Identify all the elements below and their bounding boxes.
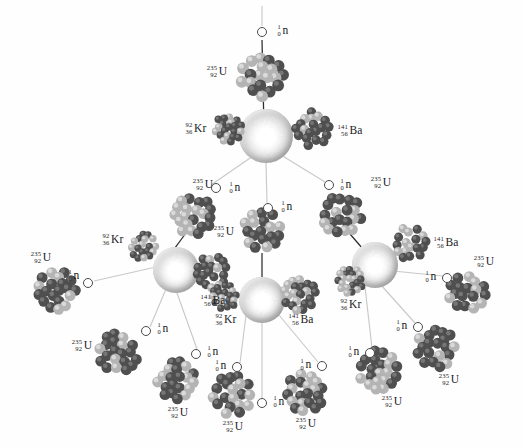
element-symbol: n [286, 201, 292, 213]
isotope-label-barium-141: 14156Ba [433, 236, 458, 249]
neutron-particle [317, 361, 327, 371]
isotope-label-uranium-235: 23592U [296, 417, 317, 430]
element-symbol: U [84, 340, 93, 352]
isotope-numbers: 10 [69, 269, 72, 282]
element-symbol: n [220, 360, 226, 372]
atomic-number: 0 [208, 352, 211, 359]
element-symbol: n [212, 346, 218, 358]
isotope-label-krypton-92: 9236Kr [215, 313, 236, 326]
element-symbol: n [73, 270, 79, 282]
element-symbol: n [345, 179, 351, 191]
element-symbol: Kr [111, 234, 124, 246]
isotope-numbers: 10 [208, 345, 211, 358]
isotope-numbers: 10 [278, 24, 281, 37]
neutron-ray [94, 267, 156, 281]
atomic-number: 36 [215, 320, 222, 327]
element-symbol: n [162, 323, 168, 335]
isotope-numbers: 10 [301, 358, 304, 371]
element-symbol: U [205, 179, 214, 191]
atomic-number: 92 [371, 183, 382, 190]
isotope-numbers: 23592 [474, 255, 485, 268]
neutron-particle [83, 278, 93, 288]
atomic-number: 36 [340, 305, 347, 312]
isotope-label-uranium-235: 23592U [31, 251, 52, 264]
nucleus-barium [390, 223, 430, 263]
isotope-numbers: 23592 [214, 225, 225, 238]
isotope-numbers: 10 [216, 359, 219, 372]
isotope-label-uranium-235: 23592U [382, 395, 403, 408]
isotope-label-uranium-235: 23592U [168, 406, 189, 419]
element-symbol: U [235, 421, 244, 433]
atomic-number: 92 [193, 185, 204, 192]
nucleus-uranium [281, 368, 329, 416]
element-symbol: U [394, 396, 403, 408]
neutron-particle [257, 27, 267, 37]
atomic-number: 92 [72, 346, 83, 353]
isotope-numbers: 10 [274, 395, 277, 408]
isotope-numbers: 14156 [288, 313, 299, 326]
isotope-label-neutron: 10n [274, 395, 285, 408]
isotope-numbers: 10 [230, 181, 233, 194]
atomic-number: 0 [301, 365, 304, 372]
neutron-ray [240, 315, 246, 363]
element-symbol: n [353, 346, 359, 358]
element-symbol: U [486, 256, 495, 268]
isotope-label-uranium-235: 23592U [371, 176, 392, 189]
atomic-number: 0 [158, 329, 161, 336]
isotope-numbers: 23592 [193, 178, 204, 191]
atomic-number: 92 [474, 262, 485, 269]
atomic-number: 0 [341, 185, 344, 192]
element-symbol: U [308, 418, 317, 430]
element-symbol: Ba [445, 237, 458, 249]
isotope-numbers: 9236 [215, 313, 222, 326]
atomic-number: 92 [207, 72, 218, 79]
fission-flash [239, 277, 285, 323]
isotope-numbers: 9236 [340, 298, 347, 311]
atomic-number: 92 [214, 232, 225, 239]
isotope-label-uranium-235: 23592U [223, 420, 244, 433]
nucleus-krypton [334, 265, 366, 297]
element-symbol: n [430, 271, 436, 283]
isotope-numbers: 14156 [433, 236, 444, 249]
isotope-numbers: 23592 [439, 373, 450, 386]
element-symbol: n [278, 396, 284, 408]
atomic-number: 36 [102, 240, 109, 247]
nucleus-barium [280, 275, 320, 315]
isotope-label-uranium-235: 23592U [193, 178, 214, 191]
isotope-label-uranium-235: 23592U [474, 255, 495, 268]
atomic-number: 56 [200, 301, 211, 308]
isotope-numbers: 23592 [371, 176, 382, 189]
neutron-particle [413, 322, 423, 332]
isotope-numbers: 10 [341, 178, 344, 191]
atomic-number: 0 [426, 277, 429, 284]
isotope-label-barium-141: 14156Ba [288, 313, 313, 326]
isotope-numbers: 10 [426, 270, 429, 283]
nucleus-krypton [128, 231, 160, 263]
atomic-number: 56 [433, 243, 444, 250]
isotope-label-krypton-92: 9236Kr [102, 233, 123, 246]
neutron-particle [365, 348, 375, 358]
isotope-label-krypton-92: 9236Kr [340, 298, 361, 311]
neutron-ray [381, 285, 415, 323]
neutron-ray [281, 155, 325, 182]
isotope-numbers: 23592 [31, 251, 42, 264]
isotope-numbers: 10 [397, 319, 400, 332]
isotope-label-neutron: 10n [208, 345, 219, 358]
isotope-numbers: 23592 [223, 420, 234, 433]
isotope-numbers: 14156 [200, 294, 211, 307]
neutron-ray [365, 287, 372, 348]
atomic-number: 0 [274, 402, 277, 409]
nucleus-uranium [318, 191, 366, 239]
atomic-number: 92 [439, 380, 450, 387]
element-symbol: n [401, 320, 407, 332]
isotope-numbers: 9236 [185, 122, 192, 135]
isotope-label-neutron: 10n [301, 358, 312, 371]
neutron-ray [266, 163, 267, 203]
atomic-number: 92 [223, 427, 234, 434]
atomic-number: 92 [382, 402, 393, 409]
element-symbol: U [219, 66, 228, 78]
nucleus-uranium [94, 329, 142, 377]
neutron-particle [263, 203, 273, 213]
element-symbol: U [180, 407, 189, 419]
isotope-numbers: 23592 [382, 395, 393, 408]
